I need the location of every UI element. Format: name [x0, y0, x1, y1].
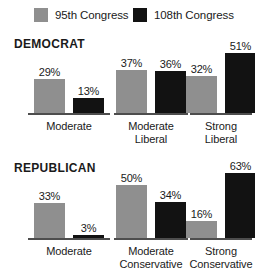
- bar-pair: 37% 36%: [114, 36, 188, 113]
- category-label-line2: Liberal: [184, 133, 255, 146]
- category-label-line1: Moderate: [108, 245, 194, 258]
- bar-value-label: 16%: [191, 208, 212, 220]
- category-label-line2: Conservative: [108, 258, 194, 271]
- bar-item: 3%: [73, 160, 104, 238]
- bar-value-label: 33%: [39, 190, 60, 202]
- grouped-bar-chart: 95th Congress 108th Congress DEMOCRAT 29…: [0, 0, 255, 280]
- bar-item: 13%: [73, 36, 104, 113]
- bar-value-label: 32%: [191, 63, 212, 75]
- plot-area: 37% 36%: [114, 36, 188, 113]
- bar-value-label: 50%: [121, 172, 142, 184]
- legend-label-95th: 95th Congress: [55, 9, 129, 21]
- plot-area: 33% 3%: [28, 160, 110, 238]
- group-democrat-strong-liberal: 32% 51% Strong Liberal: [190, 36, 252, 146]
- bar-pair: 16% 63%: [190, 160, 252, 238]
- bar-95th: [116, 70, 147, 113]
- category-label-line1: Moderate: [22, 120, 116, 133]
- chart-legend: 95th Congress 108th Congress: [0, 6, 255, 26]
- bar-value-label: 13%: [78, 85, 99, 97]
- category-label-line2: Liberal: [108, 133, 194, 146]
- bar-item: 50%: [116, 160, 147, 238]
- axis-baseline: [28, 238, 110, 240]
- bar-item: 16%: [186, 160, 217, 238]
- bar-value-label: 37%: [121, 57, 142, 69]
- axis-baseline: [114, 113, 188, 115]
- bar-item: 29%: [34, 36, 65, 113]
- bar-value-label: 29%: [39, 66, 60, 78]
- plot-area: 32% 51%: [190, 36, 252, 113]
- bar-108th: [155, 71, 186, 113]
- bar-pair: 50% 34%: [114, 160, 188, 238]
- legend-item-95th: 95th Congress: [34, 7, 129, 23]
- axis-baseline: [114, 238, 188, 240]
- group-republican-moderate: 33% 3% Moderate: [28, 160, 110, 280]
- bar-95th: [34, 203, 65, 238]
- bar-108th: [225, 173, 255, 238]
- legend-label-108th: 108th Congress: [154, 9, 234, 21]
- group-republican-strong-conservative: 16% 63% Strong Conservative: [190, 160, 252, 280]
- category-label: Moderate Liberal: [108, 120, 194, 145]
- legend-item-108th: 108th Congress: [133, 7, 234, 23]
- plot-area: 29% 13%: [28, 36, 110, 113]
- plot-area: 16% 63%: [190, 160, 252, 238]
- bar-pair: 32% 51%: [190, 36, 252, 113]
- axis-baseline: [190, 113, 252, 115]
- category-label-line2: Conservative: [184, 258, 255, 271]
- bar-item: 33%: [34, 160, 65, 238]
- category-label: Moderate: [22, 120, 116, 133]
- bar-item: 51%: [225, 36, 255, 113]
- panel-democrat: DEMOCRAT 29% 13% Moderate: [0, 36, 255, 146]
- bar-95th: [186, 76, 217, 113]
- legend-swatch-108th: [133, 8, 147, 22]
- legend-swatch-95th: [34, 8, 48, 22]
- category-label: Moderate: [22, 245, 116, 258]
- bar-value-label: 34%: [160, 189, 181, 201]
- category-label: Strong Conservative: [184, 245, 255, 270]
- bar-108th: [155, 202, 186, 238]
- bar-95th: [34, 79, 65, 113]
- bar-value-label: 36%: [160, 58, 181, 70]
- category-label-line1: Moderate: [22, 245, 116, 258]
- category-label-line1: Moderate: [108, 120, 194, 133]
- bar-pair: 29% 13%: [28, 36, 110, 113]
- panel-republican: REPUBLICAN 33% 3% Moderate: [0, 160, 255, 280]
- bar-value-label: 3%: [81, 222, 97, 234]
- bar-pair: 33% 3%: [28, 160, 110, 238]
- bar-item: 32%: [186, 36, 217, 113]
- group-democrat-moderate-liberal: 37% 36% Moderate Liberal: [114, 36, 188, 146]
- category-label: Strong Liberal: [184, 120, 255, 145]
- plot-area: 50% 34%: [114, 160, 188, 238]
- group-democrat-moderate: 29% 13% Moderate: [28, 36, 110, 146]
- category-label-line1: Strong: [184, 245, 255, 258]
- group-republican-moderate-conservative: 50% 34% Moderate Conservative: [114, 160, 188, 280]
- bar-95th: [186, 221, 217, 238]
- axis-baseline: [190, 238, 252, 240]
- bar-value-label: 63%: [230, 160, 251, 172]
- bar-item: 36%: [155, 36, 186, 113]
- bar-item: 63%: [225, 160, 255, 238]
- category-label-line1: Strong: [184, 120, 255, 133]
- bar-item: 34%: [155, 160, 186, 238]
- category-label: Moderate Conservative: [108, 245, 194, 270]
- axis-baseline: [28, 113, 110, 115]
- bar-95th: [116, 185, 147, 238]
- bar-108th: [225, 53, 255, 113]
- bar-value-label: 51%: [230, 40, 251, 52]
- bar-item: 37%: [116, 36, 147, 113]
- bar-108th: [73, 98, 104, 113]
